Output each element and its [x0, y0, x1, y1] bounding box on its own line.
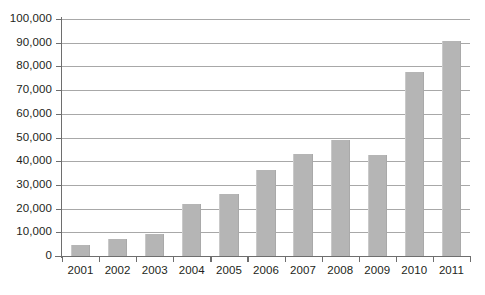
- bar-2003: [145, 234, 164, 257]
- gridline: [62, 43, 470, 44]
- y-axis-tick: [56, 19, 62, 20]
- y-axis-tick-label: 90,000: [0, 37, 52, 49]
- y-axis-tick: [56, 114, 62, 115]
- bar-2006: [256, 170, 275, 256]
- x-axis-tick: [470, 256, 471, 262]
- y-axis-tick-label: 30,000: [0, 179, 52, 191]
- gridline: [62, 66, 470, 67]
- x-axis-tick: [99, 256, 100, 262]
- x-axis-tick-label: 2008: [322, 265, 359, 277]
- y-axis-tick-label: 20,000: [0, 203, 52, 215]
- x-axis-tick-label: 2005: [210, 265, 247, 277]
- bar-chart: 010,00020,00030,00040,00050,00060,00070,…: [0, 0, 485, 295]
- x-axis-line: [55, 256, 471, 257]
- y-axis-tick: [56, 43, 62, 44]
- x-axis-tick: [173, 256, 174, 262]
- x-axis-tick: [396, 256, 397, 262]
- x-axis-tick: [285, 256, 286, 262]
- plot-area: [62, 19, 470, 256]
- bar-2008: [331, 140, 350, 256]
- y-axis-tick-label: 0: [0, 250, 52, 262]
- x-axis-tick: [322, 256, 323, 262]
- y-axis-tick: [56, 209, 62, 210]
- x-axis-tick: [433, 256, 434, 262]
- x-axis-tick: [359, 256, 360, 262]
- bar-2002: [108, 239, 127, 256]
- y-axis-tick-label: 50,000: [0, 132, 52, 144]
- bar-2001: [71, 245, 90, 256]
- y-axis-tick-label: 70,000: [0, 84, 52, 96]
- bar-2011: [442, 41, 461, 256]
- gridline: [62, 19, 470, 20]
- y-axis-tick: [56, 185, 62, 186]
- bar-2005: [219, 194, 238, 256]
- y-axis-tick-label: 40,000: [0, 155, 52, 167]
- x-axis-tick-label: 2006: [247, 265, 284, 277]
- x-axis-tick: [136, 256, 137, 262]
- x-axis-tick: [210, 256, 211, 262]
- bar-2010: [405, 72, 424, 256]
- y-axis-tick: [56, 66, 62, 67]
- bar-2007: [293, 154, 312, 256]
- y-axis-tick: [56, 161, 62, 162]
- y-axis-labels: 010,00020,00030,00040,00050,00060,00070,…: [0, 0, 52, 295]
- y-axis-tick-label: 100,000: [0, 13, 52, 25]
- x-axis-tick-label: 2001: [62, 265, 99, 277]
- bar-2004: [182, 204, 201, 256]
- y-axis-tick: [56, 232, 62, 233]
- y-axis-tick: [56, 90, 62, 91]
- x-axis-tick-label: 2009: [359, 265, 396, 277]
- y-axis-tick-label: 60,000: [0, 108, 52, 120]
- x-axis-tick: [62, 256, 63, 262]
- y-axis-tick-label: 80,000: [0, 60, 52, 72]
- x-axis-tick-label: 2011: [433, 265, 470, 277]
- x-axis-tick-label: 2007: [285, 265, 322, 277]
- bar-2009: [368, 155, 387, 256]
- x-axis-tick-label: 2004: [173, 265, 210, 277]
- x-axis-tick-label: 2002: [99, 265, 136, 277]
- x-axis-tick-label: 2003: [136, 265, 173, 277]
- x-axis-tick-label: 2010: [396, 265, 433, 277]
- y-axis-tick: [56, 138, 62, 139]
- x-axis-tick: [247, 256, 248, 262]
- y-axis-tick-label: 10,000: [0, 226, 52, 238]
